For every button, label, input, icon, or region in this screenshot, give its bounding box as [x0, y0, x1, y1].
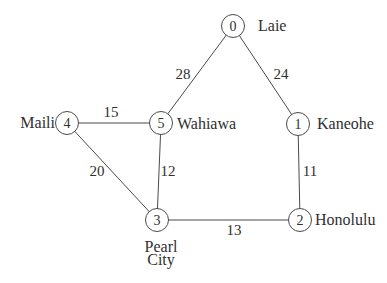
node-3-id: 3	[154, 213, 161, 228]
edge-weight-1-2: 11	[303, 163, 317, 179]
node-2-id: 2	[297, 213, 304, 228]
edge-weight-0-5: 28	[176, 66, 191, 82]
node-1-name: Kaneohe	[317, 115, 374, 132]
graph-canvas: 282415201211130Laie1Kaneohe2Honolulu3Pea…	[0, 0, 387, 283]
edge-weight-4-5: 15	[104, 104, 119, 120]
edge-weight-4-3: 20	[90, 163, 105, 179]
node-4-name: Maili	[20, 114, 55, 131]
node-2-name: Honolulu	[315, 211, 375, 228]
edge-weight-3-2: 13	[227, 222, 242, 238]
node-1-id: 1	[295, 117, 302, 132]
node-3-name: City	[147, 251, 175, 269]
edge-1-2	[298, 124, 300, 220]
node-0-name: Laie	[258, 17, 286, 34]
edge-4-3	[67, 123, 157, 220]
graph-figure: 282415201211130Laie1Kaneohe2Honolulu3Pea…	[0, 0, 387, 283]
node-4-id: 4	[64, 116, 71, 131]
edge-weight-0-1: 24	[274, 66, 290, 82]
edge-0-5	[161, 26, 233, 123]
edge-weight-5-3: 12	[161, 163, 176, 179]
node-0-id: 0	[230, 19, 237, 34]
node-5-id: 5	[158, 116, 165, 131]
node-5-name: Wahiawa	[177, 115, 236, 132]
